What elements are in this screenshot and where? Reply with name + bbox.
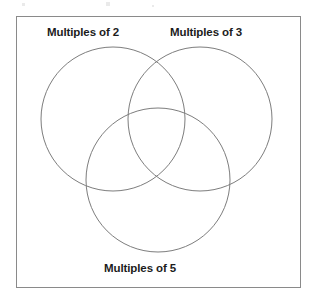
diagram-frame: [16, 16, 301, 288]
set-label-multiples-of-2: Multiples of 2: [47, 26, 119, 38]
diagram-canvas: Multiples of 2 Multiples of 3 Multiples …: [0, 0, 315, 295]
scan-artifact: [106, 2, 110, 6]
set-label-multiples-of-3: Multiples of 3: [170, 26, 242, 38]
set-label-multiples-of-5: Multiples of 5: [104, 262, 176, 274]
scan-artifact: [152, 5, 154, 7]
scan-artifact: [22, 3, 25, 6]
